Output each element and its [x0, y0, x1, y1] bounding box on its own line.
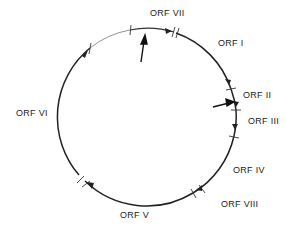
direction-arrows	[82, 28, 239, 191]
orf-v-arc	[85, 181, 193, 206]
label-orf-i: ORF I	[218, 38, 244, 48]
label-orf-ii: ORF II	[243, 90, 271, 100]
orf-ii-arc	[231, 89, 236, 110]
label-orf-vii: ORF VII	[150, 8, 185, 18]
orf-iv-arc	[193, 136, 234, 193]
genome-map: ORF VII ORF I ORF II ORF III ORF IV ORF …	[0, 0, 293, 232]
label-orf-vi: ORF VI	[16, 108, 48, 118]
label-orf-viii: ORF VIII	[221, 199, 258, 209]
orf-vi-arc	[57, 48, 90, 175]
label-orf-iii: ORF III	[248, 116, 279, 126]
label-orf-v: ORF V	[120, 210, 149, 220]
label-orf-iv: ORF IV	[233, 165, 265, 175]
orf-iii-arc	[234, 110, 236, 136]
noncoding-arc	[90, 30, 130, 48]
